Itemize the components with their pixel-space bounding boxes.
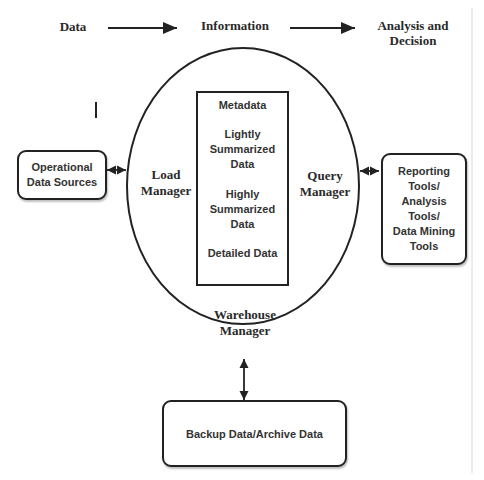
warehouse-manager-label: Warehouse Manager (205, 307, 285, 339)
query-manager-label: Query Manager (294, 168, 356, 200)
flow-step-information: Information (188, 18, 282, 34)
storage-lightly-summarized: Lightly Summarized Data (198, 127, 287, 172)
lightly-line3: Data (198, 157, 287, 172)
flow-step-analysis-line2: Decision (363, 33, 463, 48)
tools-line2: Tools/ (393, 179, 455, 194)
tools-line1: Reporting (393, 164, 455, 179)
storage-detailed-data: Detailed Data (198, 247, 287, 260)
operational-data-sources-box: Operational Data Sources (17, 150, 107, 200)
storage-highly-summarized: Highly Summarized Data (198, 187, 287, 232)
storage-metadata: Metadata (198, 99, 287, 112)
backup-label: Backup Data/Archive Data (186, 428, 323, 440)
highly-line3: Data (198, 217, 287, 232)
lightly-line1: Lightly (198, 127, 287, 142)
query-manager-line1: Query (294, 168, 356, 184)
warehouse-manager-line2: Manager (205, 323, 285, 339)
query-manager-line2: Manager (294, 184, 356, 200)
reporting-analysis-tools-box: Reporting Tools/ Analysis Tools/ Data Mi… (381, 153, 467, 265)
warehouse-manager-line1: Warehouse (205, 307, 285, 323)
flow-step-data: Data (48, 19, 98, 35)
flow-step-analysis-decision: Analysis and Decision (363, 18, 463, 48)
operational-line2: Data Sources (27, 175, 97, 190)
backup-archive-data-box: Backup Data/Archive Data (162, 400, 347, 467)
highly-line1: Highly (198, 187, 287, 202)
load-manager-label: Load Manager (136, 167, 196, 199)
operational-line1: Operational (27, 160, 97, 175)
tools-line3: Analysis (393, 194, 455, 209)
tools-line5: Data Mining (393, 224, 455, 239)
highly-line2: Summarized (198, 202, 287, 217)
load-manager-line1: Load (136, 167, 196, 183)
load-manager-line2: Manager (136, 183, 196, 199)
flow-step-analysis-line1: Analysis and (363, 18, 463, 33)
tools-line6: Tools (393, 239, 455, 254)
tools-line4: Tools/ (393, 209, 455, 224)
stray-cursor-mark (95, 102, 97, 118)
lightly-line2: Summarized (198, 142, 287, 157)
